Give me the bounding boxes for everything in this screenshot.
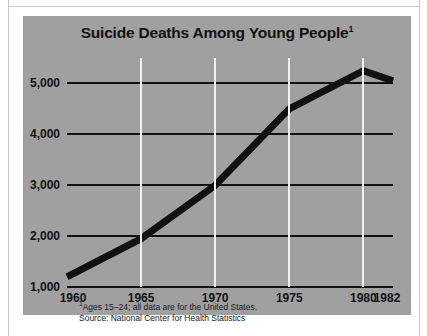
footnote-note: 1Ages 15–24; all data are for the United… — [79, 302, 257, 313]
page-rule-top — [8, 6, 420, 7]
gridline-vertical — [288, 58, 290, 287]
y-axis-tick-label: 2,000 — [30, 229, 60, 243]
page-rule-right — [419, 0, 420, 336]
footnote-note-text: Ages 15–24; all data are for the United … — [83, 302, 257, 312]
y-axis-tick-label: 1,000 — [30, 280, 60, 294]
y-axis-tick-label: 3,000 — [30, 178, 60, 192]
series-polyline — [67, 71, 393, 277]
gridline-vertical — [362, 58, 364, 287]
y-axis-tick-label: 5,000 — [30, 76, 60, 90]
plot-area: 1,0002,0003,0004,0005,000196019651970197… — [67, 58, 393, 287]
gridline-horizontal — [67, 133, 393, 135]
chart-title-footnote-marker: 1 — [349, 24, 354, 34]
page-canvas: Suicide Deaths Among Young People1 1,000… — [0, 0, 427, 336]
gridline-horizontal — [67, 286, 393, 288]
chart-title-text: Suicide Deaths Among Young People — [81, 24, 349, 41]
series-line-chart — [67, 58, 393, 287]
gridline-vertical — [140, 58, 142, 287]
gridline-horizontal — [67, 235, 393, 237]
x-axis-tick-label: 1982 — [374, 291, 401, 305]
page-rule-left — [8, 0, 9, 336]
gridline-horizontal — [67, 184, 393, 186]
y-axis-tick-label: 4,000 — [30, 127, 60, 141]
gridline-vertical — [214, 58, 216, 287]
footnote-source: Source: National Center for Health Stati… — [79, 313, 257, 324]
x-axis-tick-label: 1975 — [276, 291, 303, 305]
gridline-horizontal — [67, 82, 393, 84]
chart-panel: Suicide Deaths Among Young People1 1,000… — [23, 16, 411, 315]
footnote-block: 1Ages 15–24; all data are for the United… — [79, 302, 257, 325]
chart-title: Suicide Deaths Among Young People1 — [23, 24, 411, 42]
